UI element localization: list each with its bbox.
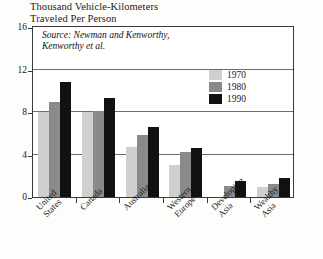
source-note: Source: Newman and Kenworthy, Kenworthy … <box>42 30 232 52</box>
legend: 197019801990 <box>209 70 246 104</box>
bar <box>104 98 115 197</box>
chart-title-line-1: Thousand Vehicle-Kilometers <box>30 1 270 13</box>
bar-group <box>120 27 164 197</box>
y-axis-tick-12: 12 <box>3 66 27 76</box>
bar-chart: Thousand Vehicle-Kilometers Traveled Per… <box>0 0 323 259</box>
chart-title: Thousand Vehicle-Kilometers Traveled Per… <box>30 1 270 25</box>
y-axis-tickmark-8 <box>28 113 32 114</box>
bar <box>49 102 60 197</box>
bar-group <box>208 27 252 197</box>
legend-item: 1990 <box>209 94 246 104</box>
legend-swatch <box>209 82 222 92</box>
legend-label: 1980 <box>227 82 246 92</box>
y-axis-tick-4: 4 <box>3 151 27 161</box>
bar <box>38 112 49 197</box>
legend-swatch <box>209 94 222 104</box>
chart-title-line-2: Traveled Per Person <box>30 13 270 25</box>
source-note-line-2: Kenworthy et al. <box>42 41 232 52</box>
bar-groups <box>33 27 293 197</box>
bar-group <box>164 27 208 197</box>
legend-swatch <box>209 70 222 80</box>
y-axis-tickmark-4 <box>28 156 32 157</box>
y-axis-tick-8: 8 <box>3 108 27 118</box>
bar <box>93 111 104 197</box>
x-axis-tickmark <box>207 198 208 203</box>
bar <box>191 148 202 197</box>
x-axis-tickmark <box>163 198 164 203</box>
y-axis-tickmark-12 <box>28 71 32 72</box>
y-axis-tick-16: 16 <box>3 23 27 33</box>
bar-group <box>77 27 121 197</box>
x-axis-tickmark <box>119 198 120 203</box>
source-note-line-1: Source: Newman and Kenworthy, <box>42 30 232 41</box>
y-axis-tick-0: 0 <box>3 193 27 203</box>
x-axis-tickmark <box>76 198 77 203</box>
bar <box>82 112 93 197</box>
legend-item: 1980 <box>209 82 246 92</box>
bar-group <box>251 27 295 197</box>
legend-label: 1970 <box>227 70 246 80</box>
bar-group <box>33 27 77 197</box>
legend-label: 1990 <box>227 94 246 104</box>
y-axis-tickmark-0 <box>28 198 32 199</box>
bar <box>60 82 71 197</box>
legend-item: 1970 <box>209 70 246 80</box>
x-axis-tickmark <box>250 198 251 203</box>
y-axis-tickmark-16 <box>28 28 32 29</box>
